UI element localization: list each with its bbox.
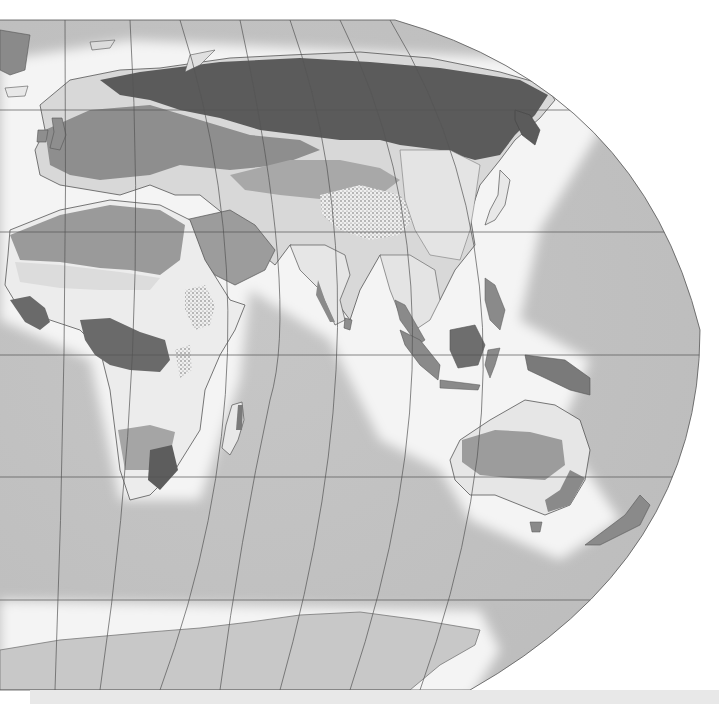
iceland (5, 86, 28, 97)
tasmania (530, 522, 542, 532)
ireland (37, 130, 48, 142)
greenland-edge (0, 30, 30, 75)
bottom-bar (30, 690, 719, 704)
world-map (0, 0, 719, 704)
